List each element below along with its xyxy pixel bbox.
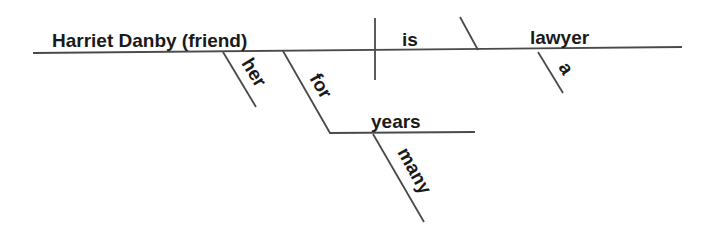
many-word: many <box>394 144 437 198</box>
a-word: a <box>555 58 579 78</box>
predicate-divider <box>460 17 478 50</box>
verb-word: is <box>402 29 418 50</box>
predicate-nominative-word: lawyer <box>530 27 590 48</box>
years-word: years <box>371 111 421 132</box>
subject-word: Harriet Danby (friend) <box>52 30 247 51</box>
sentence-diagram: Harriet Danby (friend) is lawyer her for… <box>0 0 709 236</box>
